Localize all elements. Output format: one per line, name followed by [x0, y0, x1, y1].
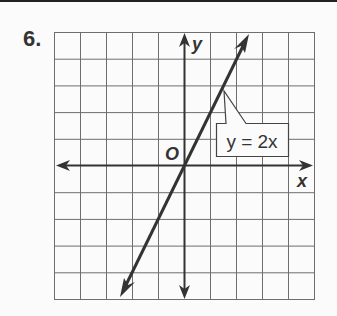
equation-label: y = 2x	[226, 131, 278, 152]
origin-label: O	[165, 144, 179, 164]
equation-callout: y = 2x	[217, 91, 289, 157]
y-axis-label: y	[191, 34, 203, 54]
x-axis-label: x	[296, 171, 308, 191]
coordinate-graph: y = 2x y x O	[0, 0, 337, 316]
